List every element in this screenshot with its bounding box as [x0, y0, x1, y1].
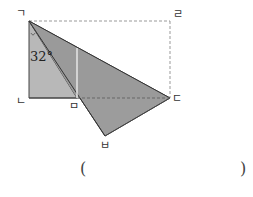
vertex-label-mieum: ㅁ	[69, 101, 79, 112]
folded-rectangle-diagram	[0, 0, 253, 197]
vertex-label-giyeok: ㄱ	[16, 8, 26, 19]
vertex-label-bieup: ㅂ	[100, 140, 110, 151]
answer-open-paren: (	[80, 161, 86, 177]
angle-label: 32°	[30, 50, 53, 63]
vertex-label-nieun: ㄴ	[16, 96, 26, 107]
vertex-label-rieul: ㄹ	[173, 9, 183, 20]
vertex-label-digeut: ㄷ	[172, 93, 182, 104]
answer-close-paren: )	[240, 161, 246, 177]
